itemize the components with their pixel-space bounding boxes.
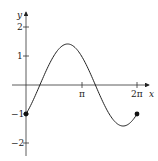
y-tick-label-1: 1	[17, 51, 23, 61]
end-point	[135, 112, 140, 117]
start-point	[24, 112, 29, 117]
y-tick-label-minus-1: −1	[11, 109, 24, 119]
x-axis-label: x	[149, 89, 154, 99]
x-tick-label-2pi: 2π	[131, 89, 143, 99]
y-axis-label: y	[16, 10, 23, 20]
y-tick-label-minus-2: −2	[11, 138, 24, 148]
y-tick-label-2: 2	[17, 22, 23, 32]
chart: x y 2 1 −1 −2 π 2π	[0, 0, 158, 161]
x-ticks: π 2π	[79, 82, 143, 99]
x-tick-label-pi: π	[79, 89, 85, 99]
